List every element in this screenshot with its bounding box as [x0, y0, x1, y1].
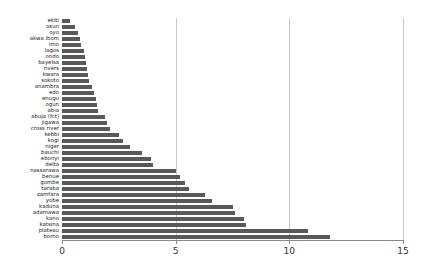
bar-sokoto[interactable] — [62, 79, 89, 84]
bar-edo[interactable] — [62, 91, 94, 96]
bar-delta[interactable] — [62, 163, 153, 168]
bar-kwara[interactable] — [62, 73, 88, 78]
bar-series — [62, 18, 403, 240]
bar-kebbi[interactable] — [62, 133, 119, 138]
bar-zamfara[interactable] — [62, 193, 205, 198]
gridline-x-15 — [403, 18, 404, 240]
bar-ekiti[interactable] — [62, 19, 70, 24]
bar-nassarawa[interactable] — [62, 169, 176, 174]
x-axis-line — [62, 240, 403, 241]
bar-anambra[interactable] — [62, 85, 92, 90]
bar-bayelsa[interactable] — [62, 61, 86, 66]
bar-plateau[interactable] — [62, 229, 308, 234]
plot-area — [62, 18, 403, 240]
bar-kogi[interactable] — [62, 139, 123, 144]
bar-oyo[interactable] — [62, 31, 78, 36]
bar-kaduna[interactable] — [62, 205, 233, 210]
x-tick-label-10: 10 — [284, 246, 295, 257]
x-tick-label-5: 5 — [173, 246, 179, 257]
bar-katsina[interactable] — [62, 223, 246, 228]
bar-taraba[interactable] — [62, 187, 189, 192]
x-tick-0 — [62, 240, 63, 244]
bar-kano[interactable] — [62, 217, 244, 222]
bar-abia[interactable] — [62, 109, 98, 114]
bar-gombe[interactable] — [62, 181, 185, 186]
bar-borno[interactable] — [62, 235, 330, 240]
bar-adamawa[interactable] — [62, 211, 235, 216]
bar-rivers[interactable] — [62, 67, 87, 72]
bar-enugu[interactable] — [62, 97, 96, 102]
bar-yobe[interactable] — [62, 199, 212, 204]
bar-akwa-ibom[interactable] — [62, 37, 80, 42]
bar-osun[interactable] — [62, 25, 75, 30]
category-label-borno: borno — [43, 234, 59, 239]
bar-benue[interactable] — [62, 175, 180, 180]
x-tick-label-0: 0 — [59, 246, 65, 257]
x-tick-15 — [403, 240, 404, 244]
x-tick-5 — [176, 240, 177, 244]
x-tick-label-15: 15 — [397, 246, 408, 257]
x-tick-10 — [289, 240, 290, 244]
bar-chart: ekitiosunoyoakwa ibomimolagosondobayelsa… — [0, 0, 447, 280]
bar-abuja-fct-[interactable] — [62, 115, 105, 120]
category-axis-labels: ekitiosunoyoakwa ibomimolagosondobayelsa… — [0, 18, 59, 240]
bar-lagos[interactable] — [62, 49, 84, 54]
bar-jigawa[interactable] — [62, 121, 107, 126]
bar-cross-river[interactable] — [62, 127, 110, 132]
bar-ebonyi[interactable] — [62, 157, 151, 162]
bar-bauchi[interactable] — [62, 151, 142, 156]
bar-niger[interactable] — [62, 145, 130, 150]
bar-imo[interactable] — [62, 43, 81, 48]
bar-ondo[interactable] — [62, 55, 85, 60]
bar-ogun[interactable] — [62, 103, 97, 108]
